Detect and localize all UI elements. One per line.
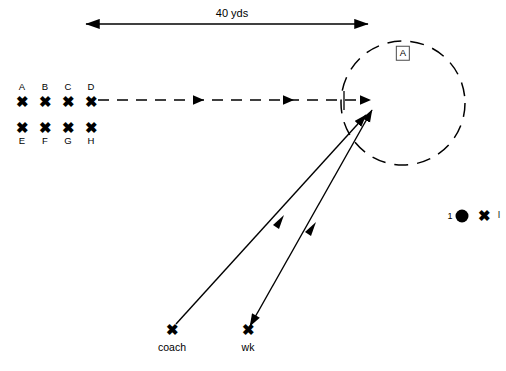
player-label-b: B (42, 82, 48, 92)
player-marker-a[interactable]: ✖ (16, 94, 29, 109)
wk-label: wk (242, 342, 255, 353)
player-label-h: H (88, 136, 95, 146)
player-marker-f[interactable]: ✖ (39, 120, 52, 135)
player-marker-h[interactable]: ✖ (85, 120, 98, 135)
player-marker-d[interactable]: ✖ (85, 94, 98, 109)
ball-station-edge-label: l (498, 211, 500, 220)
path-coach-pass (176, 115, 366, 324)
dimension-label: 40 yds (216, 8, 248, 19)
zone-tag-a: A (396, 46, 410, 61)
ball-icon (456, 210, 469, 223)
player-marker-e[interactable]: ✖ (16, 120, 29, 135)
player-marker-g[interactable]: ✖ (62, 120, 75, 135)
player-marker-c[interactable]: ✖ (62, 94, 75, 109)
coach-label: coach (158, 342, 186, 353)
ball-station-marker[interactable]: ✖ (478, 208, 491, 223)
player-marker-b[interactable]: ✖ (39, 94, 52, 109)
player-label-c: C (65, 82, 72, 92)
wk-marker[interactable]: ✖ (242, 322, 255, 337)
coach-marker[interactable]: ✖ (166, 322, 179, 337)
player-label-a: A (19, 82, 25, 92)
diagram-vector-layer (0, 0, 506, 371)
player-label-f: F (42, 136, 48, 146)
path-wk-pass (250, 110, 372, 326)
player-label-e: E (19, 136, 25, 146)
drill-diagram-canvas: 40 yds A ✖ A ✖ B ✖ C ✖ D ✖ E ✖ F ✖ G ✖ H… (0, 0, 506, 371)
player-label-d: D (88, 82, 95, 92)
ball-count-label: 1 (447, 212, 452, 221)
player-label-g: G (64, 136, 71, 146)
path-run-route (98, 91, 371, 110)
